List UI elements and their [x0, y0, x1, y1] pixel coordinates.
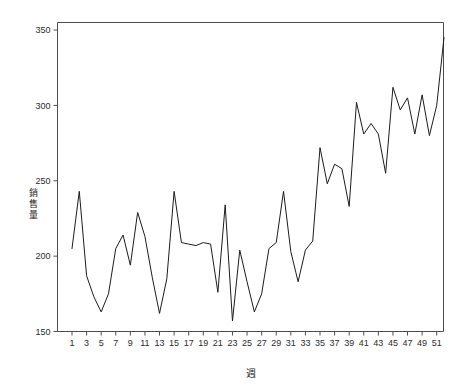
x-tick-label: 49 [417, 338, 427, 348]
x-tick-label: 27 [257, 338, 267, 348]
y-tick-label: 350 [35, 25, 50, 35]
x-tick-label: 21 [213, 338, 223, 348]
x-tick-label: 11 [140, 338, 149, 348]
x-tick-label: 29 [271, 338, 281, 348]
x-tick-label: 13 [155, 338, 165, 348]
x-tick-label: 1 [69, 338, 74, 348]
chart-canvas: 150200250300350 135791113151719212325272… [0, 0, 466, 384]
x-tick-label: 47 [403, 338, 413, 348]
chart-background [0, 0, 466, 384]
x-tick-label: 45 [388, 338, 398, 348]
x-axis-title-label: 週 [246, 368, 256, 379]
x-tick-label: 23 [227, 338, 237, 348]
x-tick-label: 31 [286, 338, 296, 348]
y-axis-title: 銷售量 [29, 187, 38, 220]
line-chart-figure: 150200250300350 135791113151719212325272… [0, 0, 466, 384]
y-axis-title-char: 售 [29, 198, 38, 209]
x-tick-label: 25 [242, 338, 252, 348]
y-tick-label: 150 [35, 327, 50, 337]
x-tick-label: 9 [128, 338, 133, 348]
y-tick-label: 200 [35, 251, 50, 261]
x-tick-label: 41 [359, 338, 369, 348]
y-tick-label: 300 [35, 101, 50, 111]
y-tick-label: 250 [35, 176, 50, 186]
x-tick-label: 19 [198, 338, 208, 348]
x-tick-label: 39 [344, 338, 354, 348]
x-tick-label: 3 [84, 338, 89, 348]
x-tick-label: 5 [99, 338, 104, 348]
x-tick-label: 43 [373, 338, 383, 348]
x-tick-label: 33 [300, 338, 310, 348]
x-tick-label: 17 [184, 338, 194, 348]
x-tick-label: 35 [315, 338, 325, 348]
x-tick-label: 37 [330, 338, 340, 348]
y-axis-title-char: 銷 [29, 187, 38, 198]
x-tick-label: 7 [113, 338, 118, 348]
y-axis-title-char: 量 [29, 210, 38, 220]
x-tick-label: 51 [432, 338, 442, 348]
x-tick-label: 15 [169, 338, 179, 348]
